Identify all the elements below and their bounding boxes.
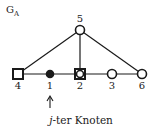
node-label-5: 5 [77,13,83,24]
edge-5-4 [18,30,80,74]
node-3-circle-icon [108,70,117,79]
node-label-6: 6 [139,80,145,91]
edge-5-6 [80,30,142,74]
node-label-2: 2 [77,80,83,91]
node-1-filled-circle-icon [47,71,54,78]
node-5-circle-icon [76,26,85,35]
node-label-4: 4 [15,80,21,91]
edges [18,30,142,74]
node-label-3: 3 [109,80,115,91]
caption: j-ter Knoten [49,114,113,126]
node-label-1: 1 [47,80,53,91]
pointer-arrow-icon [47,96,53,108]
caption-text: -ter Knoten [52,114,112,126]
node-2-inner-circle-icon [77,71,84,78]
node-6-circle-icon [138,70,147,79]
node-4-square-icon [13,69,23,79]
